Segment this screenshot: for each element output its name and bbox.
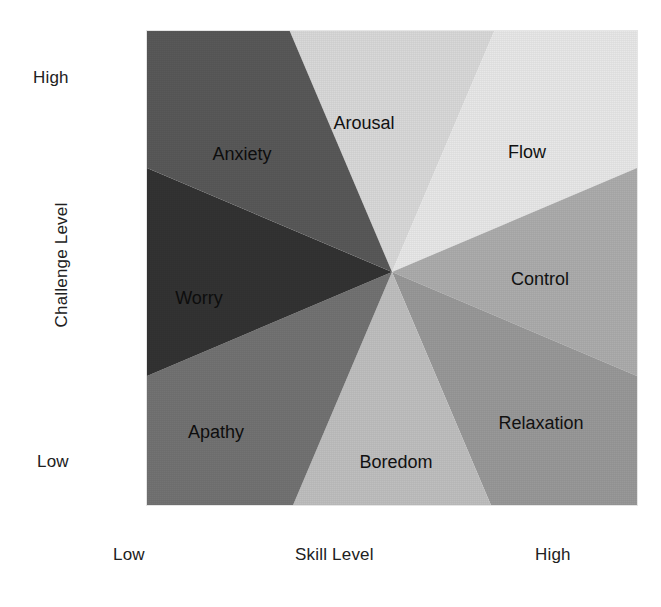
x-axis-high-label: High	[535, 545, 571, 565]
x-axis-title: Skill Level	[295, 545, 374, 565]
x-axis-low-label: Low	[113, 545, 145, 565]
flow-model-wheel	[147, 31, 637, 505]
y-axis-high-label: High	[33, 68, 69, 88]
flow-model-figure: High Challenge Level Low Low Skill Level…	[0, 0, 661, 607]
y-axis-low-label: Low	[37, 452, 69, 472]
sector-wedges	[147, 31, 637, 505]
y-axis-title: Challenge Level	[52, 195, 72, 335]
